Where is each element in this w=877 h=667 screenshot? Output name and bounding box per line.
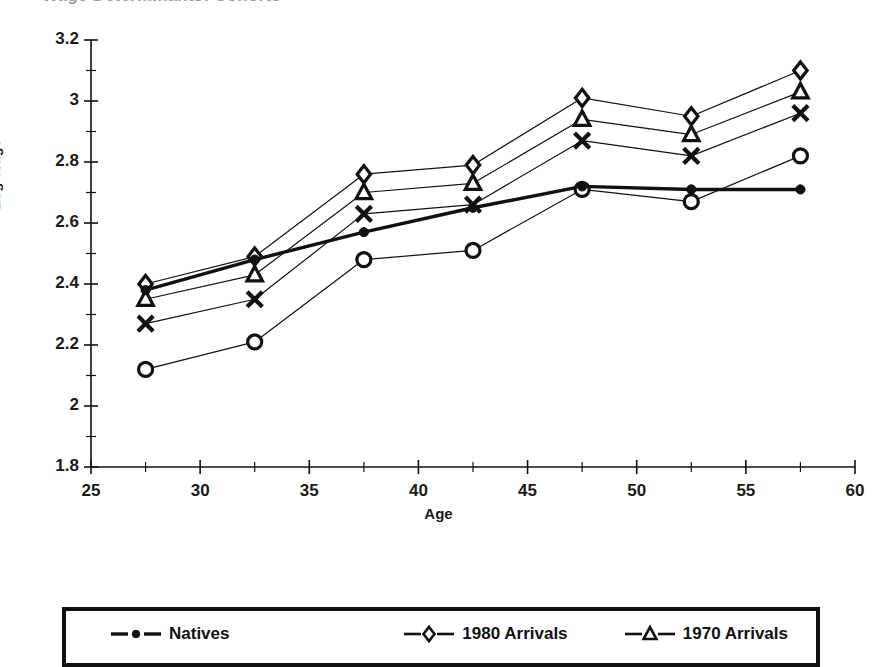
data-point-diamond [794, 62, 807, 79]
x-tick-label: 40 [390, 481, 446, 501]
data-point-filled-circle [359, 228, 368, 237]
legend-marker-diamond-icon [403, 624, 455, 644]
legend-item-label: Natives [169, 624, 229, 644]
data-point-filled-circle [132, 630, 140, 638]
data-point-cross [247, 292, 262, 307]
data-point-diamond [466, 156, 479, 173]
x-tick-label: 55 [718, 481, 774, 501]
data-point-triangle [684, 126, 699, 140]
y-tick-label: 2 [21, 395, 79, 415]
data-point-triangle [356, 184, 371, 198]
data-point-filled-circle [468, 203, 477, 212]
data-point-open-circle [684, 195, 698, 209]
plot-canvas [91, 40, 855, 467]
y-tick-label: 2.2 [21, 334, 79, 354]
x-axis-label: Age [0, 505, 877, 522]
x-tick-label: 30 [172, 481, 228, 501]
data-point-filled-circle [687, 185, 696, 194]
plot-area [91, 40, 855, 467]
legend-item-1970-arrivals[interactable]: 1970 Arrivals [624, 624, 788, 644]
data-point-triangle [574, 111, 589, 125]
data-point-filled-circle [578, 182, 587, 191]
data-point-open-circle [248, 335, 262, 349]
data-point-cross [793, 106, 808, 121]
legend-item-label: 1980 Arrivals [462, 624, 567, 644]
y-tick-label: 2.8 [21, 151, 79, 171]
data-point-triangle [793, 83, 808, 97]
data-point-triangle [465, 175, 480, 189]
chart-legend: Natives1980 Arrivals1970 Arrivals [62, 607, 820, 667]
y-tick-label: 3 [21, 90, 79, 110]
data-point-cross [138, 316, 153, 331]
x-tick-label: 25 [63, 481, 119, 501]
y-tick-label: 2.4 [21, 273, 79, 293]
legend-item-1980-arrivals[interactable]: 1980 Arrivals [403, 624, 623, 644]
data-point-diamond [575, 89, 588, 106]
data-point-filled-circle [796, 185, 805, 194]
legend-item-natives[interactable]: Natives [110, 624, 403, 644]
series-markers [138, 106, 808, 332]
x-tick-label: 60 [827, 481, 877, 501]
data-point-open-circle [139, 362, 153, 376]
series-line [146, 113, 801, 323]
legend-marker-filled-circle-icon [110, 624, 162, 644]
data-point-open-circle [793, 149, 807, 163]
data-point-diamond [357, 166, 370, 183]
data-point-open-circle [466, 243, 480, 257]
page-title: Wage Determinants: Cohorts [42, 0, 281, 6]
y-tick-label: 3.2 [21, 29, 79, 49]
data-point-filled-circle [250, 255, 259, 264]
y-tick-label: 2.6 [21, 212, 79, 232]
x-tick-label: 35 [281, 481, 337, 501]
y-axis-label: Log Wage [0, 139, 3, 210]
x-tick-label: 45 [500, 481, 556, 501]
data-point-open-circle [357, 253, 371, 267]
legend-item-label: 1970 Arrivals [683, 624, 788, 644]
data-point-triangle [643, 627, 656, 639]
x-tick-label: 50 [609, 481, 665, 501]
data-point-filled-circle [141, 286, 150, 295]
y-tick-label: 1.8 [21, 456, 79, 476]
data-point-diamond [685, 108, 698, 125]
data-point-triangle [247, 266, 262, 280]
data-point-cross [575, 133, 590, 148]
legend-marker-triangle-icon [624, 624, 676, 644]
data-point-cross [684, 148, 699, 163]
series-line [146, 92, 801, 299]
data-point-diamond [424, 627, 435, 641]
